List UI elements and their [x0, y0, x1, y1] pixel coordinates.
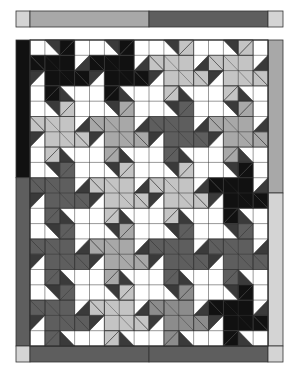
bottom-border-segment [30, 346, 149, 362]
quilt-center [30, 40, 268, 346]
bottom-border-segment [149, 346, 268, 362]
left-border [16, 40, 30, 346]
top-strip [16, 11, 283, 27]
bottom-border-segment [16, 346, 30, 362]
left-border-segment [16, 40, 30, 178]
left-border-segment [16, 178, 30, 346]
top-strip-segment [30, 11, 149, 27]
top-strip-segment [149, 11, 268, 27]
top-strip-segment [268, 11, 283, 27]
bottom-border [16, 346, 283, 362]
cell-grid [30, 40, 268, 346]
quilt-diagram [0, 0, 302, 380]
right-border [268, 40, 283, 346]
top-strip-segment [16, 11, 30, 27]
bottom-border-segment [268, 346, 283, 362]
right-border-segment [268, 193, 283, 346]
right-border-segment [268, 40, 283, 193]
